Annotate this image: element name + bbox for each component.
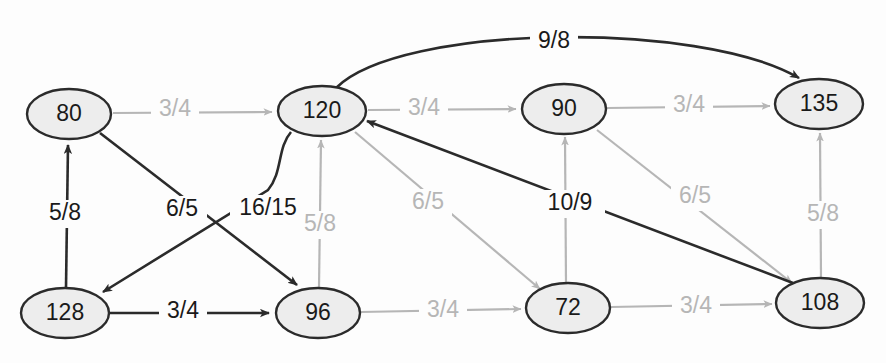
edge-label-108-135: 5/8 (807, 200, 839, 226)
node-label-90: 90 (551, 95, 577, 121)
node-72[interactable]: 72 (526, 283, 610, 333)
node-135[interactable]: 135 (775, 79, 863, 129)
edge-label-120-90: 3/4 (408, 94, 440, 120)
edge-label-128-96: 3/4 (167, 297, 199, 323)
node-label-80: 80 (56, 100, 82, 126)
edge-label-80-96: 6/5 (166, 195, 198, 221)
node-label-135: 135 (800, 90, 838, 116)
graph-svg: 3/4 3/4 3/4 9/8 5/8 6/5 16/15 5/8 3/4 3/… (0, 0, 886, 363)
edge-label-120-128: 16/15 (239, 194, 297, 220)
node-96[interactable]: 96 (276, 288, 360, 338)
edge-label-120-72: 6/5 (412, 188, 444, 214)
edge-label-80-120: 3/4 (159, 95, 191, 121)
edge-label-108-120: 10/9 (548, 189, 593, 215)
edge-label-128-80: 5/8 (49, 199, 81, 225)
node-label-96: 96 (305, 299, 331, 325)
edge-label-72-108: 3/4 (680, 292, 712, 318)
node-108[interactable]: 108 (776, 278, 864, 328)
node-label-128: 128 (46, 299, 84, 325)
edge-label-90-108: 6/5 (679, 182, 711, 208)
node-120[interactable]: 120 (278, 86, 366, 136)
edge-label-120-135: 9/8 (538, 27, 570, 53)
node-label-108: 108 (801, 289, 839, 315)
edge-group-dark (66, 37, 799, 313)
node-90[interactable]: 90 (522, 84, 606, 134)
edge-label-backdrops (41, 28, 847, 326)
node-label-72: 72 (555, 294, 581, 320)
edge-labels: 3/4 3/4 3/4 9/8 5/8 6/5 16/15 5/8 3/4 3/… (49, 27, 839, 323)
edge-label-96-72: 3/4 (427, 296, 459, 322)
node-80[interactable]: 80 (27, 89, 111, 139)
node-label-120: 120 (303, 97, 341, 123)
node-128[interactable]: 128 (21, 288, 109, 338)
edge-label-90-135: 3/4 (673, 91, 705, 117)
diagram-canvas: 3/4 3/4 3/4 9/8 5/8 6/5 16/15 5/8 3/4 3/… (0, 0, 886, 363)
edge-label-96-120: 5/8 (304, 210, 336, 236)
